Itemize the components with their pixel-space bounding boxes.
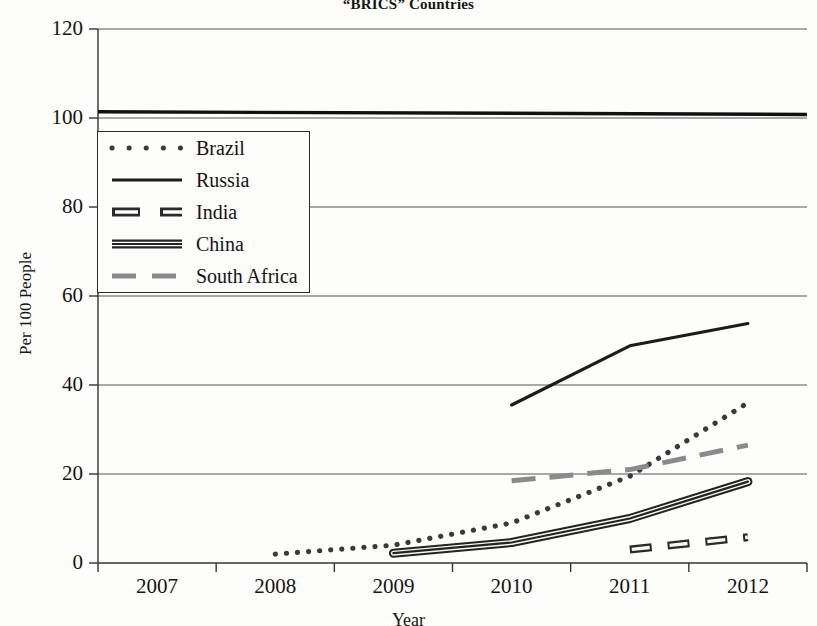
series-russia	[512, 324, 748, 405]
legend-swatch-icon	[108, 269, 186, 283]
chart-legend: BrazilRussiaIndiaChinaSouth Africa	[97, 131, 310, 293]
legend-swatch-icon	[108, 237, 186, 251]
y-tick-label: 40	[0, 374, 83, 395]
legend-item-brazil[interactable]: Brazil	[98, 132, 309, 164]
series-line	[393, 482, 748, 554]
reference-line-100	[98, 112, 807, 115]
chart-container: “BRICS” Countries Per 100 People Year Br…	[0, 0, 817, 626]
y-tick-label: 80	[0, 196, 83, 217]
x-axis-label: Year	[0, 610, 817, 626]
x-tick-label: 2010	[453, 576, 571, 597]
x-tick-label: 2008	[216, 576, 334, 597]
y-tick-label: 120	[0, 18, 83, 39]
legend-label: Brazil	[196, 137, 245, 160]
legend-item-india[interactable]: India	[98, 196, 309, 228]
y-tick-label: 0	[0, 552, 83, 573]
series-line-core	[393, 482, 748, 554]
legend-label: China	[196, 233, 244, 256]
series-line	[512, 324, 748, 405]
legend-label: South Africa	[196, 265, 298, 288]
legend-label: India	[196, 201, 237, 224]
legend-swatch-icon	[108, 173, 186, 187]
x-tick-label: 2011	[571, 576, 689, 597]
series-line-gap	[393, 482, 748, 554]
x-tick-label: 2012	[689, 576, 807, 597]
plot-area	[0, 0, 817, 626]
legend-item-south-africa[interactable]: South Africa	[98, 260, 309, 292]
legend-item-china[interactable]: China	[98, 228, 309, 260]
series-india	[630, 537, 748, 549]
y-tick-label: 60	[0, 285, 83, 306]
y-tick-label: 20	[0, 463, 83, 484]
legend-item-russia[interactable]: Russia	[98, 164, 309, 196]
legend-swatch-icon	[108, 205, 186, 219]
x-tick-label: 2009	[334, 576, 452, 597]
legend-swatch-icon	[108, 141, 186, 155]
legend-label: Russia	[196, 169, 249, 192]
x-tick-label: 2007	[98, 576, 216, 597]
series-china	[393, 482, 748, 554]
y-tick-label: 100	[0, 107, 83, 128]
